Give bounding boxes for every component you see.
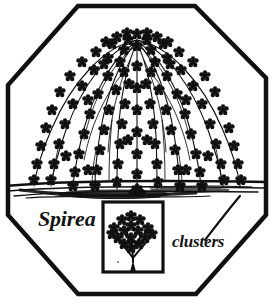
ground-shadow-right xyxy=(150,187,230,193)
flower-cluster-inset xyxy=(103,202,163,272)
spirea-line-drawing xyxy=(0,0,273,305)
inset-speck xyxy=(117,261,119,263)
clusters-label: clusters xyxy=(172,232,224,252)
spirea-illustration-figure: Spirea clusters xyxy=(0,0,273,305)
shrub-base xyxy=(128,188,146,196)
plant-name-label: Spirea xyxy=(38,206,95,232)
